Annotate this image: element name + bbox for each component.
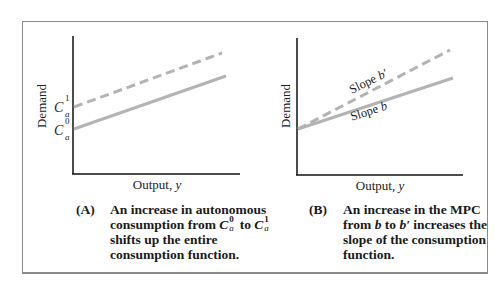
panel-a-chart: Demand Output, y C 1 a C 0 a [34, 36, 240, 192]
panel-a-y-axis-label: Demand [34, 83, 49, 128]
caption-a-line-1: An increase in autonomous [110, 202, 276, 217]
caption-b-line-2: from b to b′ increases the [343, 217, 489, 232]
panel-b-y-axis-label: Demand [278, 83, 293, 128]
panel-a-original-consumption-line [74, 76, 226, 129]
caption-b-line-4: function. [343, 247, 489, 262]
svg-text:a: a [65, 132, 70, 142]
slope-b-label: Slope b [349, 99, 389, 124]
caption-a-line-2: consumption from C0a to C1a [110, 217, 276, 232]
caption-b-line-1: An increase in the MPC [343, 202, 489, 217]
caption-a-line-3: shifts up the entire [110, 232, 276, 247]
slope-b-prime-label: Slope b′ [347, 66, 390, 96]
panel-a-x-axis-label: Output, y [133, 177, 182, 192]
panel-b-chart: Demand Output, y Slope b′ Slope b [278, 38, 463, 193]
panel-b-slope-b-prime-line [298, 50, 450, 129]
intercept-label-c-a-0: C 0 a [54, 116, 70, 142]
caption-a-line-4: consumption function. [110, 247, 276, 262]
panel-a-caption: (A) An increase in autonomous consumptio… [76, 202, 276, 262]
svg-text:C: C [54, 100, 64, 115]
panel-b-caption: (B) An increase in the MPC from b to b′ … [309, 202, 489, 262]
svg-text:0: 0 [65, 116, 70, 126]
panel-a-caption-label: (A) [76, 202, 95, 217]
panel-b-caption-label: (B) [309, 202, 327, 217]
svg-text:C: C [54, 123, 64, 138]
caption-b-line-3: slope of the consumption [343, 232, 489, 247]
panel-a-shifted-consumption-line [74, 53, 222, 107]
svg-text:1: 1 [65, 93, 70, 103]
panel-b-x-axis-label: Output, y [356, 178, 405, 193]
